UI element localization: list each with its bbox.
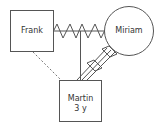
martin-age-label: 3 y [59, 104, 102, 114]
distant-dashed-line [33, 52, 61, 80]
frank-label: Frank [10, 26, 54, 36]
miriam-label: Miriam [104, 26, 154, 36]
martin-label: Martin [59, 94, 102, 104]
fused-hostile-lines [77, 46, 117, 80]
